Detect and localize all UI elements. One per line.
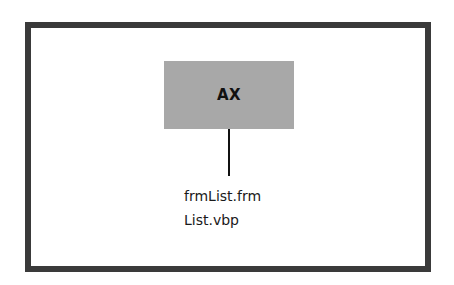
ax-node-box: AX — [164, 61, 294, 129]
connector-line — [228, 129, 230, 176]
file-list: frmList.frm List.vbp — [184, 184, 261, 232]
file-item-list-vbp: List.vbp — [184, 208, 261, 232]
file-item-frmlist: frmList.frm — [184, 184, 261, 208]
ax-node-label: AX — [217, 86, 241, 104]
